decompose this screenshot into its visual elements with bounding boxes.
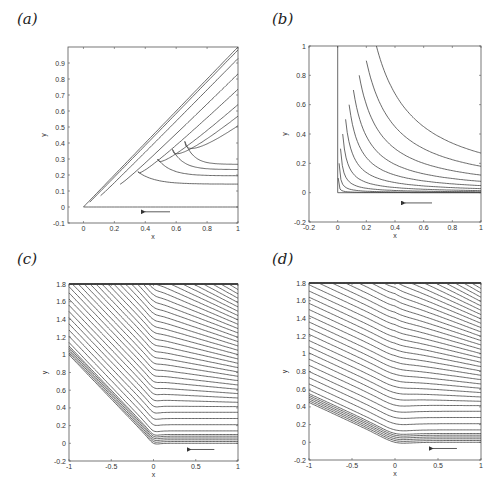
svg-text:0.2: 0.2: [109, 225, 119, 232]
svg-text:1: 1: [479, 224, 483, 231]
svg-text:0.2: 0.2: [56, 422, 66, 429]
svg-text:0.8: 0.8: [202, 225, 212, 232]
svg-text:0: 0: [152, 463, 156, 470]
svg-text:1.6: 1.6: [56, 298, 66, 305]
svg-text:-1: -1: [66, 463, 72, 470]
svg-text:1.4: 1.4: [296, 315, 306, 322]
svg-text:y: y: [40, 133, 48, 137]
svg-text:1: 1: [236, 225, 240, 232]
svg-text:0.6: 0.6: [171, 225, 181, 232]
svg-text:y: y: [281, 369, 289, 373]
panel-a-plot: 00.20.40.60.81-0.100.10.20.30.40.50.60.7…: [40, 47, 240, 240]
svg-text:0.2: 0.2: [296, 160, 306, 167]
svg-text:x: x: [393, 232, 397, 239]
svg-text:0.4: 0.4: [296, 131, 306, 138]
svg-text:1.2: 1.2: [296, 333, 306, 340]
svg-text:0: 0: [62, 440, 66, 447]
svg-text:1.4: 1.4: [56, 316, 66, 323]
svg-text:0.1: 0.1: [55, 188, 65, 195]
svg-text:0.8: 0.8: [296, 72, 306, 79]
svg-text:-0.5: -0.5: [346, 462, 358, 469]
svg-text:0.5: 0.5: [55, 124, 65, 131]
svg-text:0.4: 0.4: [140, 225, 150, 232]
svg-text:0.8: 0.8: [55, 76, 65, 83]
svg-text:1: 1: [302, 43, 306, 50]
svg-text:0.2: 0.2: [296, 421, 306, 428]
svg-text:-0.2: -0.2: [294, 457, 306, 464]
svg-text:0.9: 0.9: [55, 60, 65, 67]
svg-text:-0.1: -0.1: [53, 220, 65, 227]
svg-text:0.6: 0.6: [55, 108, 65, 115]
svg-text:0.8: 0.8: [447, 224, 457, 231]
svg-text:0.4: 0.4: [56, 404, 66, 411]
svg-text:1: 1: [302, 350, 306, 357]
svg-text:x: x: [151, 233, 155, 240]
svg-text:x: x: [152, 471, 156, 478]
svg-text:0.6: 0.6: [419, 224, 429, 231]
svg-text:0.7: 0.7: [55, 92, 65, 99]
svg-text:0.5: 0.5: [191, 463, 201, 470]
svg-text:-0.5: -0.5: [105, 463, 117, 470]
svg-text:0.3: 0.3: [55, 156, 65, 163]
svg-text:0.2: 0.2: [361, 224, 371, 231]
panel-b-plot: -0.200.20.40.60.81-0.200.20.40.60.81xy: [281, 43, 483, 240]
svg-text:-1: -1: [306, 462, 312, 469]
svg-text:0: 0: [393, 462, 397, 469]
svg-text:0.2: 0.2: [55, 172, 65, 179]
svg-text:0: 0: [302, 189, 306, 196]
svg-text:0.8: 0.8: [296, 368, 306, 375]
svg-text:0.4: 0.4: [296, 403, 306, 410]
svg-text:1: 1: [236, 463, 240, 470]
svg-text:0.4: 0.4: [55, 140, 65, 147]
svg-text:y: y: [281, 132, 289, 136]
svg-text:0.5: 0.5: [433, 462, 443, 469]
svg-text:0: 0: [61, 204, 65, 211]
svg-text:y: y: [41, 370, 49, 374]
svg-text:0.6: 0.6: [56, 387, 66, 394]
svg-text:1.6: 1.6: [296, 297, 306, 304]
svg-text:0.4: 0.4: [390, 224, 400, 231]
svg-text:0: 0: [302, 439, 306, 446]
svg-text:1.8: 1.8: [56, 281, 66, 288]
svg-text:1.2: 1.2: [56, 334, 66, 341]
svg-text:x: x: [393, 470, 397, 477]
svg-text:0: 0: [336, 224, 340, 231]
svg-text:0.8: 0.8: [56, 369, 66, 376]
svg-text:0: 0: [82, 225, 86, 232]
svg-text:1: 1: [479, 462, 483, 469]
svg-text:-0.2: -0.2: [54, 458, 66, 465]
svg-text:1: 1: [62, 351, 66, 358]
svg-text:0.6: 0.6: [296, 101, 306, 108]
svg-text:-0.2: -0.2: [294, 219, 306, 226]
figure-canvas: 00.20.40.60.81-0.100.10.20.30.40.50.60.7…: [0, 0, 494, 487]
svg-text:0.6: 0.6: [296, 386, 306, 393]
svg-text:1.8: 1.8: [296, 280, 306, 287]
panel-d-plot: -1-0.500.51-0.200.20.40.60.811.21.41.61.…: [281, 280, 483, 478]
panel-c-plot: -1-0.500.51-0.200.20.40.60.811.21.41.61.…: [41, 281, 240, 479]
